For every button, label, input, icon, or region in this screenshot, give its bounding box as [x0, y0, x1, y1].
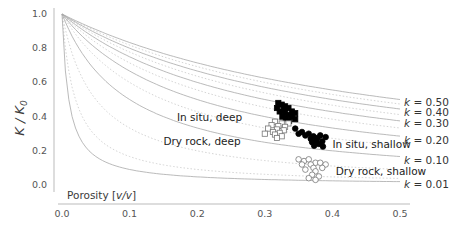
- y-tick-label: 0.8: [32, 42, 47, 53]
- data-point: [296, 131, 302, 137]
- porosity-modulus-chart: 0.00.20.40.60.81.0 0.00.10.20.30.40.5 K …: [0, 0, 452, 229]
- data-point: [323, 134, 329, 140]
- model-curve: [62, 14, 400, 182]
- curve-label: k = 0.30: [404, 117, 449, 129]
- model-curve: [62, 14, 400, 121]
- curve-label: k = 0.10: [404, 154, 449, 166]
- x-axis-label: Porosity [v/v]: [67, 189, 136, 201]
- x-tick-label: 0.2: [190, 208, 205, 219]
- data-point: [313, 177, 319, 183]
- model-curve: [62, 14, 400, 104]
- x-tick-labels: 0.00.10.20.30.40.5: [54, 208, 407, 219]
- data-points: [262, 100, 328, 182]
- y-tick-label: 0.0: [32, 179, 47, 190]
- y-tick-labels: 0.00.20.40.60.81.0: [32, 8, 47, 190]
- data-point: [277, 109, 282, 114]
- model-curve: [62, 14, 400, 115]
- data-point: [293, 117, 298, 122]
- y-tick-label: 0.4: [32, 111, 47, 122]
- y-tick-label: 0.2: [32, 145, 47, 156]
- x-tick-label: 0.3: [257, 208, 272, 219]
- model-curves: [62, 14, 400, 182]
- curve-label: k = 0.01: [404, 178, 449, 190]
- data-point: [320, 144, 326, 150]
- y-tick-label: 1.0: [32, 8, 47, 19]
- data-point: [292, 126, 298, 132]
- y-tick-label: 0.6: [32, 76, 47, 87]
- group-label: In situ, deep: [177, 111, 243, 123]
- x-tick-label: 0.4: [325, 208, 340, 219]
- data-point: [274, 135, 279, 140]
- data-point: [319, 165, 325, 171]
- model-curve: [62, 14, 400, 100]
- group-label: Dry rock, shallow: [336, 165, 427, 177]
- data-point: [262, 131, 267, 136]
- x-tick-label: 0.5: [392, 208, 407, 219]
- data-point: [299, 162, 305, 168]
- data-point: [306, 175, 312, 181]
- data-point: [311, 143, 317, 149]
- y-axis-label: K / K0: [12, 100, 29, 136]
- model-curve: [62, 14, 400, 109]
- group-label: Dry rock, deep: [163, 135, 241, 147]
- x-tick-label: 0.1: [122, 208, 137, 219]
- data-point: [303, 167, 309, 173]
- group-label: In situ, shallow: [332, 138, 411, 150]
- data-point: [317, 133, 323, 139]
- x-tick-label: 0.0: [54, 208, 69, 219]
- data-point: [296, 157, 302, 163]
